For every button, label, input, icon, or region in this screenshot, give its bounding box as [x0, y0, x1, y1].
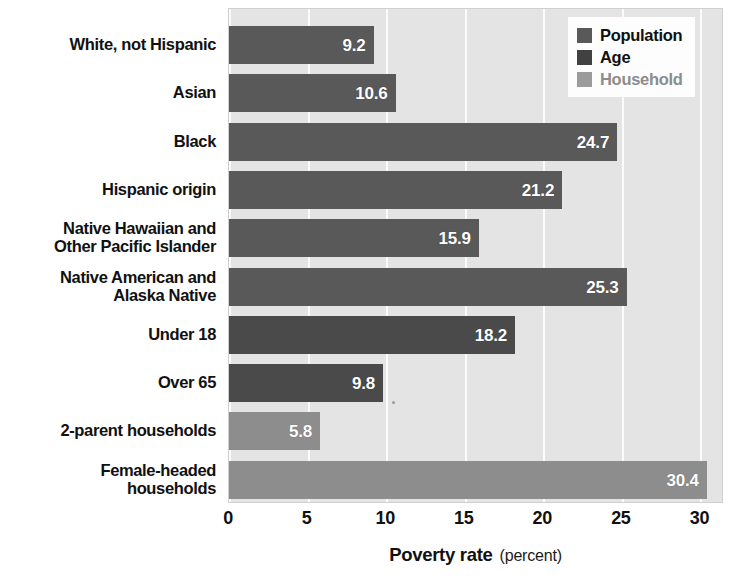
bar-value-label: 30.4: [666, 471, 698, 488]
x-axis-title-main: Poverty rate: [389, 544, 492, 565]
bar[interactable]: 9.8: [229, 364, 383, 402]
x-axis-ticks: 051015202530: [228, 508, 723, 534]
poverty-rate-bar-chart: White, not HispanicAsianBlackHispanic or…: [0, 0, 729, 581]
bar-row[interactable]: 25.3: [229, 268, 723, 306]
category-label: Hispanic origin: [0, 180, 216, 198]
legend-swatch-icon: [577, 50, 592, 65]
scan-artifact-speck: [392, 401, 395, 404]
category-label: Native Hawaiian and Other Pacific Island…: [0, 219, 216, 255]
category-label: Black: [0, 132, 216, 150]
category-axis-labels: White, not HispanicAsianBlackHispanic or…: [0, 8, 216, 503]
bar[interactable]: 15.9: [229, 219, 479, 257]
legend-label: Household: [600, 71, 683, 88]
x-tick-label: 20: [533, 508, 552, 529]
bar-value-label: 25.3: [586, 278, 618, 295]
bar-value-label: 5.8: [289, 423, 312, 440]
legend-label: Age: [600, 49, 630, 66]
category-label: Under 18: [0, 325, 216, 343]
bar-row[interactable]: 5.8: [229, 412, 723, 450]
x-tick-label: 0: [223, 508, 233, 529]
bar-row[interactable]: 21.2: [229, 171, 723, 209]
bar[interactable]: 24.7: [229, 123, 617, 161]
x-tick-label: 30: [690, 508, 709, 529]
category-label: Over 65: [0, 373, 216, 391]
legend: PopulationAgeHousehold: [568, 17, 695, 97]
legend-swatch-icon: [577, 28, 592, 43]
x-tick-label: 10: [375, 508, 394, 529]
bar[interactable]: 21.2: [229, 171, 562, 209]
bar-value-label: 15.9: [439, 230, 471, 247]
legend-swatch-icon: [577, 72, 592, 87]
bar-row[interactable]: 18.2: [229, 316, 723, 354]
bar-row[interactable]: 9.8: [229, 364, 723, 402]
x-axis-title: Poverty rate(percent): [228, 544, 723, 566]
bar-row[interactable]: 30.4: [229, 461, 723, 499]
legend-item[interactable]: Population: [577, 24, 683, 46]
x-tick-label: 25: [611, 508, 630, 529]
bar-value-label: 10.6: [355, 85, 387, 102]
category-label: White, not Hispanic: [0, 35, 216, 53]
bar[interactable]: 25.3: [229, 268, 627, 306]
x-tick-label: 5: [302, 508, 312, 529]
bar-row[interactable]: 24.7: [229, 123, 723, 161]
legend-label: Population: [600, 27, 682, 44]
bar[interactable]: 9.2: [229, 26, 374, 64]
bar-row[interactable]: 15.9: [229, 219, 723, 257]
bar[interactable]: 30.4: [229, 461, 707, 499]
legend-item[interactable]: Age: [577, 46, 683, 68]
bar-value-label: 18.2: [475, 326, 507, 343]
x-tick-label: 15: [454, 508, 473, 529]
bar-value-label: 24.7: [577, 133, 609, 150]
bar[interactable]: 18.2: [229, 316, 515, 354]
legend-item[interactable]: Household: [577, 68, 683, 90]
category-label: Asian: [0, 83, 216, 101]
category-label: 2-parent households: [0, 421, 216, 439]
bar-value-label: 21.2: [522, 181, 554, 198]
category-label: Female-headed households: [0, 461, 216, 497]
bar-value-label: 9.2: [343, 37, 366, 54]
x-axis-title-unit: (percent): [500, 547, 562, 564]
bar[interactable]: 10.6: [229, 74, 396, 112]
bar-value-label: 9.8: [352, 375, 375, 392]
bar[interactable]: 5.8: [229, 412, 320, 450]
category-label: Native American and Alaska Native: [0, 268, 216, 304]
